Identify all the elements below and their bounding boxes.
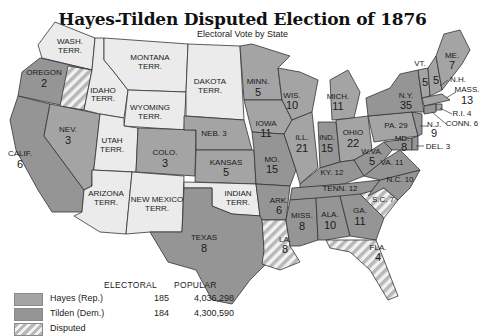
svg-text:10: 10 xyxy=(324,219,336,231)
label-newmexico: NEW MEXICO xyxy=(131,195,183,204)
svg-text:TERR.: TERR. xyxy=(94,198,118,207)
label-ri: R.I. 4 xyxy=(452,109,472,118)
svg-text:TERR.: TERR. xyxy=(138,112,162,121)
label-nev: NEV. xyxy=(59,125,77,134)
label-nh: N.H. xyxy=(450,75,466,84)
svg-text:9: 9 xyxy=(431,127,437,139)
svg-text:10: 10 xyxy=(286,99,298,111)
svg-text:5: 5 xyxy=(369,155,375,167)
svg-text:5: 5 xyxy=(255,86,261,98)
svg-text:TERR.: TERR. xyxy=(58,46,82,55)
svg-text:15: 15 xyxy=(266,163,278,175)
legend-row-tilden: Tilden (Dem.) 184 4,300,590 xyxy=(14,308,254,321)
label-wash: WASH. xyxy=(57,37,83,46)
svg-text:11: 11 xyxy=(260,127,271,139)
label-sc: S.C. 7 xyxy=(372,195,395,204)
legend-row-hayes: Hayes (Rep.) 185 4,036,298 xyxy=(14,293,254,306)
svg-text:15: 15 xyxy=(321,142,333,154)
svg-text:TERR.: TERR. xyxy=(145,204,169,213)
label-conn: CONN. 6 xyxy=(446,119,479,128)
svg-text:11: 11 xyxy=(354,215,365,227)
label-ohio: OHIO xyxy=(343,128,363,137)
svg-text:3: 3 xyxy=(162,157,168,169)
label-tenn: TENN. 12 xyxy=(322,184,358,193)
svg-text:4: 4 xyxy=(375,251,381,263)
label-calif: CALIF. xyxy=(8,149,32,158)
svg-text:6: 6 xyxy=(276,204,282,216)
svg-text:8: 8 xyxy=(201,242,207,254)
svg-text:8: 8 xyxy=(282,243,288,255)
label-ala: ALA. xyxy=(321,210,338,219)
label-minn: MINN. xyxy=(247,77,270,86)
svg-text:22: 22 xyxy=(347,137,359,149)
region-fla[interactable] xyxy=(326,240,398,300)
svg-text:3: 3 xyxy=(65,134,71,146)
label-oregon: OREGON xyxy=(26,68,62,77)
us-map: WASH. TERR. OREGON 2 CALIF. 6 NEV. 3 IDA… xyxy=(0,0,485,336)
label-miss: MISS. xyxy=(291,211,313,220)
label-montana: MONTANA xyxy=(130,53,170,62)
label-colo: COLO. xyxy=(153,148,178,157)
svg-text:TERR.: TERR. xyxy=(100,145,124,154)
label-dakota: DAKOTA xyxy=(194,77,227,86)
region-ny[interactable] xyxy=(366,70,424,116)
label-ga: GA. xyxy=(353,206,367,215)
svg-text:2: 2 xyxy=(41,77,47,89)
label-vt: VT. xyxy=(414,59,426,68)
label-ky: KY. 12 xyxy=(321,168,345,177)
label-neb: NEB. 3 xyxy=(201,129,227,138)
svg-text:11: 11 xyxy=(332,100,343,112)
svg-text:6: 6 xyxy=(17,158,23,170)
svg-text:TERR.: TERR. xyxy=(138,62,162,71)
svg-text:TERR.: TERR. xyxy=(226,198,250,207)
svg-text:13: 13 xyxy=(461,94,473,106)
label-va: VA. 11 xyxy=(381,158,404,167)
label-arizona: ARIZONA xyxy=(88,189,124,198)
svg-text:21: 21 xyxy=(296,142,308,154)
svg-text:7: 7 xyxy=(449,59,455,71)
label-nc: N.C. 10 xyxy=(386,175,414,184)
hayes-swatch xyxy=(14,293,43,306)
svg-text:5: 5 xyxy=(223,166,229,178)
legend-row-disputed: Disputed xyxy=(14,323,254,336)
svg-text:TERR.: TERR. xyxy=(91,94,115,103)
label-ind: IND. xyxy=(319,133,335,142)
label-mass: MASS. xyxy=(455,85,480,94)
region-conn[interactable] xyxy=(424,104,436,114)
legend-header-popular: POPULAR xyxy=(174,280,217,290)
svg-text:TERR.: TERR. xyxy=(198,86,222,95)
svg-text:5: 5 xyxy=(422,76,428,88)
svg-text:8: 8 xyxy=(299,220,305,232)
label-utah: UTAH xyxy=(101,136,122,145)
region-ri[interactable] xyxy=(436,104,442,110)
label-texas: TEXAS xyxy=(191,233,217,242)
disputed-swatch xyxy=(14,323,43,336)
tilden-swatch xyxy=(14,308,43,321)
region-del[interactable] xyxy=(412,136,418,150)
label-indian: INDIAN xyxy=(224,189,251,198)
svg-text:35: 35 xyxy=(400,99,412,111)
label-del: DEL. 3 xyxy=(426,142,451,151)
label-wyoming: WYOMING xyxy=(130,103,170,112)
legend-header-electoral: ELECTORAL xyxy=(104,280,157,290)
label-pa: PA. 29 xyxy=(384,121,408,130)
svg-text:8: 8 xyxy=(401,141,407,153)
label-ill: ILL. xyxy=(295,133,308,142)
svg-text:5: 5 xyxy=(433,74,439,86)
